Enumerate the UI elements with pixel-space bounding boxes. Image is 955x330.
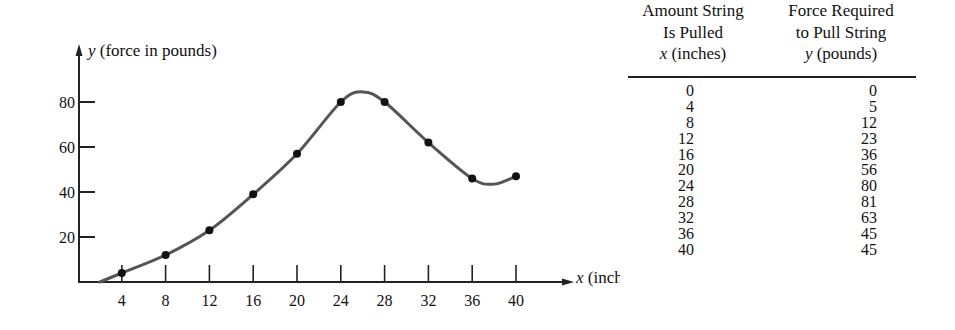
table-row: 2480 <box>620 178 930 194</box>
cell-x: 0 <box>620 83 766 99</box>
x-tick-label: 16 <box>245 292 261 309</box>
y-tick-label: 40 <box>59 184 75 201</box>
x-tick-label: 4 <box>118 292 126 309</box>
col-y-header: Force Required to Pull String y (pounds) <box>758 0 924 65</box>
x-tick-label: 20 <box>289 292 305 309</box>
col-x-header-line3: x (inches) <box>628 43 758 65</box>
table-row: 2056 <box>620 162 930 178</box>
col-x-header-line1: Amount String <box>628 0 758 22</box>
x-ticks: 481216202428323640 <box>118 265 524 309</box>
x-tick-label: 28 <box>377 292 393 309</box>
header-rule <box>628 76 916 78</box>
data-point <box>381 98 389 106</box>
y-tick-label: 80 <box>59 94 75 111</box>
cell-x: 12 <box>620 131 766 147</box>
table-row: 3263 <box>620 210 930 226</box>
cell-x: 28 <box>620 194 766 210</box>
data-table: Amount String Is Pulled x (inches) Force… <box>620 0 930 65</box>
cell-y: 5 <box>766 99 929 115</box>
cell-y: 23 <box>766 131 929 147</box>
cell-y: 81 <box>766 194 929 210</box>
col-x-header: Amount String Is Pulled x (inches) <box>628 0 758 65</box>
x-tick-label: 12 <box>201 292 217 309</box>
x-tick-label: 8 <box>162 292 170 309</box>
table-row: 4045 <box>620 242 930 258</box>
table-row: 45 <box>620 99 930 115</box>
x-tick-label: 24 <box>333 292 349 309</box>
y-ticks: 20406080 <box>59 94 95 246</box>
x-axis-arrow-icon <box>562 279 574 286</box>
y-tick-label: 20 <box>59 229 75 246</box>
data-point <box>337 98 345 106</box>
x-tick-label: 40 <box>508 292 524 309</box>
data-point <box>205 226 213 234</box>
cell-x: 4 <box>620 99 766 115</box>
cell-y: 0 <box>766 83 929 99</box>
data-point <box>512 172 520 180</box>
cell-x: 24 <box>620 178 766 194</box>
table-row: 1636 <box>620 147 930 163</box>
force-chart: y (force in pounds) x (inches) 20406080 … <box>0 0 620 330</box>
data-point <box>468 175 476 183</box>
y-tick-label: 60 <box>59 139 75 156</box>
x-axis-label: x (inches) <box>575 268 620 287</box>
col-y-header-line1: Force Required <box>758 0 924 22</box>
data-point <box>249 190 257 198</box>
cell-x: 36 <box>620 226 766 242</box>
cell-y: 45 <box>766 242 929 258</box>
table-row: 00 <box>620 83 930 99</box>
table-row: 2881 <box>620 194 930 210</box>
table-row: 3645 <box>620 226 930 242</box>
y-axis-label: y (force in pounds) <box>86 41 217 60</box>
table-body: 004581212231636205624802881326336454045 <box>620 83 930 258</box>
col-x-header-line2: Is Pulled <box>628 22 758 44</box>
y-axis-arrow-icon <box>76 44 83 56</box>
cell-x: 20 <box>620 162 766 178</box>
cell-y: 63 <box>766 210 929 226</box>
cell-y: 80 <box>766 178 929 194</box>
col-y-header-line2: to Pull String <box>758 22 924 44</box>
cell-x: 40 <box>620 242 766 258</box>
table-header: Amount String Is Pulled x (inches) Force… <box>628 0 924 65</box>
cell-x: 8 <box>620 115 766 131</box>
data-point <box>424 139 432 147</box>
x-tick-label: 32 <box>420 292 436 309</box>
cell-y: 12 <box>766 115 929 131</box>
cell-x: 16 <box>620 147 766 163</box>
cell-x: 32 <box>620 210 766 226</box>
cell-y: 56 <box>766 162 929 178</box>
cell-y: 36 <box>766 147 929 163</box>
table-row: 812 <box>620 115 930 131</box>
x-tick-label: 36 <box>464 292 480 309</box>
data-point <box>293 150 301 158</box>
data-point <box>162 251 170 259</box>
table-row: 1223 <box>620 131 930 147</box>
data-point <box>118 269 126 277</box>
cell-y: 45 <box>766 226 929 242</box>
col-y-header-line3: y (pounds) <box>758 43 924 65</box>
